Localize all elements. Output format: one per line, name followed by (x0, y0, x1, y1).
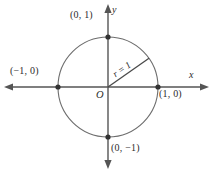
label-point-left: (−1, 0) (10, 66, 39, 76)
label-point-bottom: (0, −1) (111, 143, 140, 153)
x-axis-left-arrow-icon (4, 83, 13, 90)
point-marker-bottom (105, 134, 110, 139)
x-axis-right-arrow-icon (200, 83, 209, 90)
y-axis-bottom-arrow-icon (104, 160, 111, 169)
point-marker-left (55, 84, 60, 89)
y-axis-top-arrow-icon (104, 4, 111, 13)
unit-circle-graphic (0, 0, 211, 173)
label-point-right: (1, 0) (159, 89, 182, 99)
point-marker-top (105, 34, 110, 39)
label-point-top: (0, 1) (70, 10, 93, 20)
label-origin: O (96, 90, 104, 101)
label-x-axis: x (189, 70, 194, 80)
unit-circle-figure: (0, 1) y (−1, 0) x (1, 0) (0, −1) O r = … (0, 0, 211, 173)
label-y-axis: y (112, 5, 117, 15)
